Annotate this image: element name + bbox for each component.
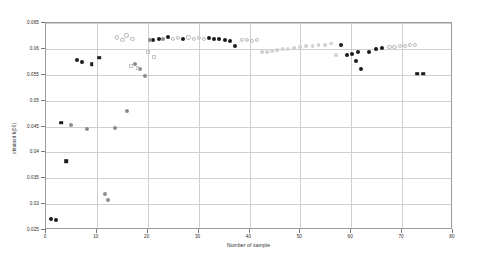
data-point	[113, 126, 117, 130]
data-point	[65, 159, 69, 163]
data-point	[374, 47, 378, 51]
data-point	[202, 37, 206, 41]
data-point	[276, 49, 280, 53]
y-tick-mark	[41, 126, 45, 127]
data-point	[260, 51, 264, 55]
gridline-vertical	[199, 23, 200, 228]
y-tick-mark	[41, 48, 45, 49]
y-tick-label: 0.025	[27, 227, 39, 232]
data-point	[85, 127, 89, 131]
y-axis-label: obtained h(00)	[12, 122, 17, 153]
scatter-chart-figure: 01020304050607080 0.0250.030.0350.040.04…	[0, 0, 478, 259]
data-point	[250, 39, 254, 43]
data-point	[359, 67, 363, 71]
gridline-vertical	[250, 23, 251, 228]
data-point	[354, 59, 358, 63]
data-point	[49, 217, 53, 221]
x-tick-label: 30	[195, 234, 200, 239]
data-point	[286, 47, 290, 51]
data-point	[339, 43, 343, 47]
data-point	[397, 44, 401, 48]
x-tick-mark	[198, 229, 199, 233]
data-point	[176, 36, 180, 40]
y-tick-mark	[41, 177, 45, 178]
y-tick-mark	[41, 229, 45, 230]
data-point	[422, 72, 426, 76]
data-point	[54, 218, 58, 222]
gridline-horizontal	[46, 23, 451, 24]
y-tick-label: 0.035	[27, 175, 39, 180]
data-point	[281, 47, 285, 51]
x-tick-mark	[452, 229, 453, 233]
data-point	[181, 37, 185, 41]
gridline-vertical	[300, 23, 301, 228]
data-point	[334, 53, 338, 57]
x-tick-mark	[401, 229, 402, 233]
data-point	[323, 43, 327, 47]
data-point	[245, 38, 249, 42]
data-point	[228, 39, 232, 43]
data-point	[403, 44, 407, 48]
data-point	[120, 37, 124, 41]
data-point	[166, 35, 170, 39]
y-tick-mark	[41, 22, 45, 23]
data-point	[136, 66, 140, 70]
x-tick-mark	[249, 229, 250, 233]
x-tick-label: 60	[348, 234, 353, 239]
data-point	[408, 43, 412, 47]
data-point	[103, 192, 107, 196]
data-point	[311, 44, 315, 48]
data-point	[69, 123, 73, 127]
y-tick-mark	[41, 100, 45, 101]
data-point	[265, 50, 269, 54]
x-tick-label: 0	[44, 234, 47, 239]
y-tick-mark	[41, 151, 45, 152]
x-tick-mark	[299, 229, 300, 233]
data-point	[233, 44, 237, 48]
y-tick-mark	[41, 203, 45, 204]
data-point	[350, 52, 354, 56]
plot-area	[45, 22, 452, 229]
data-point	[207, 36, 211, 40]
data-point	[255, 37, 259, 41]
data-point	[416, 72, 420, 76]
data-point	[148, 38, 152, 42]
data-point	[143, 74, 147, 78]
gridline-horizontal	[46, 152, 451, 153]
x-tick-label: 80	[449, 234, 454, 239]
x-tick-label: 50	[297, 234, 302, 239]
data-point	[146, 51, 150, 55]
y-tick-label: 0.06	[30, 45, 39, 50]
data-point	[305, 44, 309, 48]
y-tick-label: 0.045	[27, 123, 39, 128]
y-tick-label: 0.055	[27, 71, 39, 76]
y-tick-label: 0.03	[30, 201, 39, 206]
data-point	[345, 53, 349, 57]
x-tick-label: 40	[246, 234, 251, 239]
data-point	[161, 37, 165, 41]
data-point	[356, 50, 360, 54]
data-point	[298, 45, 302, 49]
data-point	[191, 36, 195, 40]
data-point	[125, 109, 129, 113]
data-point	[197, 36, 201, 40]
data-point	[223, 38, 227, 42]
x-tick-mark	[147, 229, 148, 233]
x-tick-label: 20	[144, 234, 149, 239]
gridline-horizontal	[46, 75, 451, 76]
x-tick-mark	[350, 229, 351, 233]
gridline-horizontal	[46, 127, 451, 128]
x-tick-mark	[96, 229, 97, 233]
data-point	[115, 35, 119, 39]
data-point	[152, 55, 156, 59]
x-tick-mark	[45, 229, 46, 233]
y-tick-label: 0.04	[30, 149, 39, 154]
data-point	[130, 37, 134, 41]
data-point	[106, 198, 110, 202]
gridline-horizontal	[46, 101, 451, 102]
data-point	[80, 60, 84, 64]
y-tick-mark	[41, 74, 45, 75]
y-tick-label: 0.05	[30, 97, 39, 102]
data-point	[217, 37, 221, 41]
data-point	[124, 33, 128, 37]
